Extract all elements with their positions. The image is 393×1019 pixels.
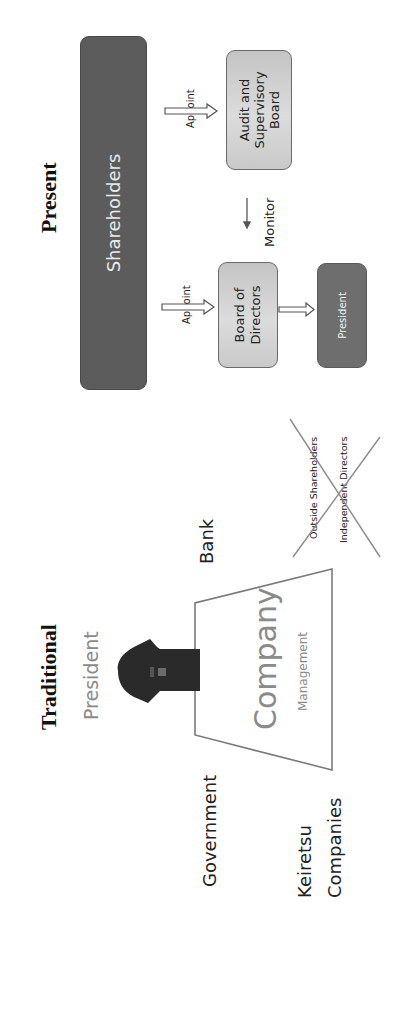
diagram-canvas: Present Shareholders Appoint Appoint Aud… bbox=[0, 0, 393, 1019]
shapes-layer bbox=[0, 0, 393, 1019]
company-trapezoid bbox=[195, 569, 332, 770]
cross-out-icon bbox=[290, 419, 380, 557]
board-to-president-arrow bbox=[279, 303, 314, 316]
appoint-arrow-audit bbox=[165, 104, 217, 118]
appoint-arrow-board bbox=[162, 300, 214, 314]
monitor-arrow bbox=[244, 198, 250, 228]
president-figure-icon bbox=[118, 639, 200, 703]
